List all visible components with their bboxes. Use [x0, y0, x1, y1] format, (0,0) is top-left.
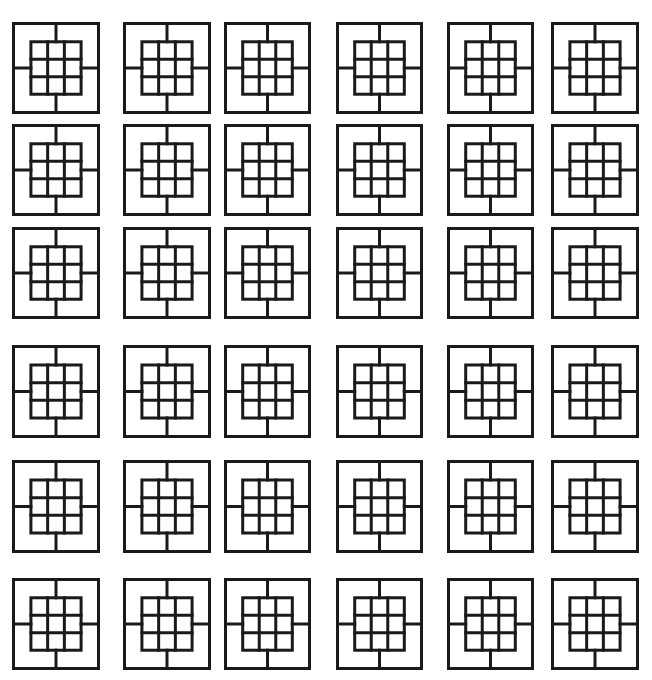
pattern-tile: [224, 227, 311, 319]
pattern-tile: [123, 460, 211, 553]
square-grid-icon: [447, 578, 534, 670]
square-grid-icon: [336, 345, 423, 438]
pattern-tile: [336, 227, 423, 319]
square-grid-icon: [123, 227, 211, 319]
pattern-tile: [447, 227, 534, 319]
square-grid-icon: [551, 124, 639, 216]
square-grid-icon: [336, 227, 423, 319]
pattern-tile: [123, 227, 211, 319]
square-grid-icon: [12, 578, 100, 670]
square-grid-icon: [224, 227, 311, 319]
pattern-tile: [336, 345, 423, 438]
square-grid-icon: [224, 460, 311, 553]
pattern-tile: [224, 124, 311, 216]
pattern-tile: [447, 345, 534, 438]
square-grid-icon: [224, 22, 311, 114]
square-grid-icon: [447, 460, 534, 553]
pattern-tile: [447, 578, 534, 670]
square-grid-icon: [12, 227, 100, 319]
square-grid-icon: [224, 578, 311, 670]
square-grid-icon: [447, 345, 534, 438]
pattern-tile: [551, 578, 639, 670]
pattern-tile: [551, 22, 639, 114]
square-grid-icon: [336, 124, 423, 216]
pattern-tile: [12, 578, 100, 670]
square-grid-icon: [336, 578, 423, 670]
pattern-tile: [336, 460, 423, 553]
pattern-tile: [12, 22, 100, 114]
pattern-tile: [224, 578, 311, 670]
tile-canvas: [0, 0, 652, 680]
pattern-tile: [551, 345, 639, 438]
pattern-tile: [12, 124, 100, 216]
square-grid-icon: [123, 578, 211, 670]
pattern-tile: [12, 345, 100, 438]
pattern-tile: [336, 22, 423, 114]
pattern-tile: [224, 22, 311, 114]
square-grid-icon: [12, 345, 100, 438]
square-grid-icon: [123, 124, 211, 216]
pattern-tile: [336, 124, 423, 216]
square-grid-icon: [447, 227, 534, 319]
square-grid-icon: [551, 460, 639, 553]
square-grid-icon: [447, 124, 534, 216]
pattern-tile: [447, 22, 534, 114]
square-grid-icon: [336, 22, 423, 114]
pattern-tile: [123, 578, 211, 670]
pattern-tile: [123, 124, 211, 216]
square-grid-icon: [123, 460, 211, 553]
pattern-tile: [551, 124, 639, 216]
square-grid-icon: [123, 345, 211, 438]
square-grid-icon: [12, 22, 100, 114]
pattern-tile: [12, 460, 100, 553]
square-grid-icon: [224, 345, 311, 438]
square-grid-icon: [447, 22, 534, 114]
pattern-tile: [551, 227, 639, 319]
pattern-tile: [123, 345, 211, 438]
pattern-tile: [336, 578, 423, 670]
pattern-tile: [224, 345, 311, 438]
pattern-tile: [551, 460, 639, 553]
square-grid-icon: [123, 22, 211, 114]
square-grid-icon: [224, 124, 311, 216]
square-grid-icon: [12, 124, 100, 216]
square-grid-icon: [551, 345, 639, 438]
pattern-tile: [224, 460, 311, 553]
square-grid-icon: [12, 460, 100, 553]
pattern-tile: [12, 227, 100, 319]
square-grid-icon: [336, 460, 423, 553]
pattern-tile: [447, 460, 534, 553]
pattern-tile: [447, 124, 534, 216]
pattern-tile: [123, 22, 211, 114]
square-grid-icon: [551, 227, 639, 319]
square-grid-icon: [551, 578, 639, 670]
square-grid-icon: [551, 22, 639, 114]
